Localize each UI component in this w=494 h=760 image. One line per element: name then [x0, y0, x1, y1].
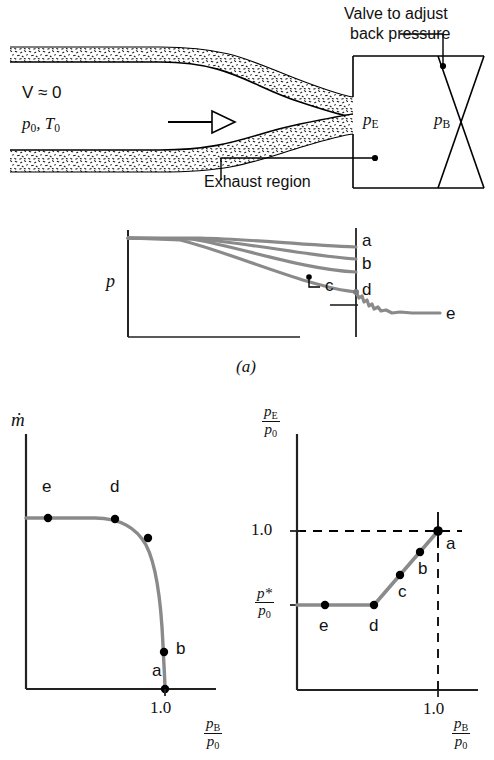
- mass-flow-chart: [26, 434, 216, 696]
- pe-point-b: [416, 548, 424, 556]
- pressure-curve-label-d: d: [362, 281, 371, 298]
- nozzle-upper-wall: [10, 47, 353, 117]
- back-pressure-symbol: pB: [434, 111, 450, 130]
- pressure-plot-y-axis-label: p: [106, 272, 115, 290]
- curve-d-exit-dot: [353, 289, 359, 295]
- mdot-point-e: [44, 514, 52, 522]
- pe-point-c: [396, 571, 404, 579]
- figure-canvas: [0, 0, 494, 760]
- valve-annotation-line2: back pressure: [350, 26, 451, 42]
- pressure-distribution-plot: [128, 228, 440, 337]
- t0-symbol: , T: [36, 114, 54, 133]
- pressure-curve-label-b: b: [362, 255, 371, 272]
- t0-subscript: 0: [54, 122, 60, 135]
- p0-symbol: p: [22, 114, 31, 133]
- flow-direction-arrow: [168, 111, 235, 133]
- mdot-xtick-label-1: 1.0: [150, 699, 171, 716]
- mdot-curve: [26, 518, 165, 689]
- pe-label-a: a: [446, 535, 455, 552]
- mdot-point-b: [160, 648, 168, 656]
- pressure-curve-label-a: a: [362, 232, 371, 249]
- pressure-curve-label-c: c: [325, 277, 334, 294]
- mdot-axis-label: ṁ: [11, 410, 25, 429]
- pe-y-axis-label: pE p0: [262, 404, 280, 440]
- pe-label-b: b: [418, 560, 427, 577]
- exit-pressure-symbol: pE: [363, 111, 379, 130]
- pe-point-e: [321, 601, 329, 609]
- pe-x-axis-label: pB p0: [452, 716, 470, 752]
- pe-xtick-label-1: 1.0: [423, 700, 444, 717]
- pe-ytick-label-1: 1.0: [251, 521, 272, 538]
- pe-ytick-label-pstar: p* p0: [255, 586, 274, 620]
- mdot-x-axis-label: pB p0: [204, 716, 222, 752]
- inlet-velocity-label: V ≈ 0: [22, 84, 62, 101]
- mdot-label-b: b: [176, 640, 185, 657]
- pe-label-e: e: [319, 617, 328, 634]
- mdot-label-d: d: [110, 478, 119, 495]
- pressure-curve-label-e: e: [446, 305, 455, 322]
- mdot-label-e: e: [42, 478, 51, 495]
- pe-point-a: [433, 526, 443, 536]
- pe-point-d: [370, 601, 378, 609]
- pe-label-c: c: [398, 583, 407, 600]
- nozzle-schematic: [10, 34, 484, 188]
- valve-annotation-line1: Valve to adjust: [344, 6, 448, 22]
- inlet-stagnation-label: p0, T0: [22, 115, 60, 134]
- mdot-point-d: [111, 515, 119, 523]
- nozzle-back-pressure-figure: Valve to adjust back pressure V ≈ 0 p0, …: [0, 0, 494, 760]
- caption-a: (a): [236, 358, 256, 375]
- pe-curve: [297, 531, 438, 605]
- exhaust-region-annotation: Exhaust region: [204, 174, 311, 190]
- exit-pressure-chart: [290, 434, 478, 697]
- mdot-point-c: [144, 534, 152, 542]
- pe-label-d: d: [369, 617, 378, 634]
- mdot-label-a: a: [152, 662, 161, 679]
